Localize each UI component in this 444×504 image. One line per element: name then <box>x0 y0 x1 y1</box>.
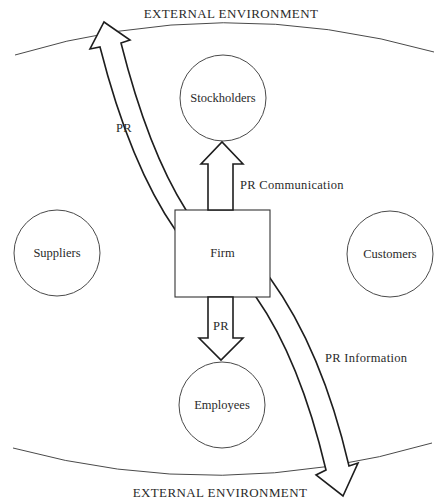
environment-top-boundary <box>15 23 434 55</box>
arrow-pr-information-to-environment-bottom <box>256 278 358 496</box>
edge-label-pr-employees: PR <box>213 319 229 333</box>
node-firm: Firm <box>175 210 270 297</box>
node-customers-label: Customers <box>363 247 417 261</box>
node-suppliers-label: Suppliers <box>33 246 80 260</box>
edge-label-pr-top: PR <box>116 121 132 135</box>
arrow-pr-communication-to-stockholders <box>201 142 243 210</box>
edge-label-pr-communication: PR Communication <box>240 178 344 192</box>
environment-top-label: EXTERNAL ENVIRONMENT <box>144 6 319 21</box>
pr-diagram: EXTERNAL ENVIRONMENT EXTERNAL ENVIRONMEN… <box>0 0 444 504</box>
node-employees: Employees <box>179 362 265 448</box>
node-suppliers: Suppliers <box>14 210 100 296</box>
environment-bottom-label: EXTERNAL ENVIRONMENT <box>133 485 308 500</box>
node-stockholders: Stockholders <box>180 55 266 141</box>
node-firm-label: Firm <box>210 246 235 260</box>
edge-label-pr-information: PR Information <box>325 351 408 365</box>
node-customers: Customers <box>347 211 433 297</box>
arrow-pr-to-environment-top <box>90 22 186 231</box>
node-employees-label: Employees <box>194 398 250 412</box>
node-stockholders-label: Stockholders <box>190 91 255 105</box>
